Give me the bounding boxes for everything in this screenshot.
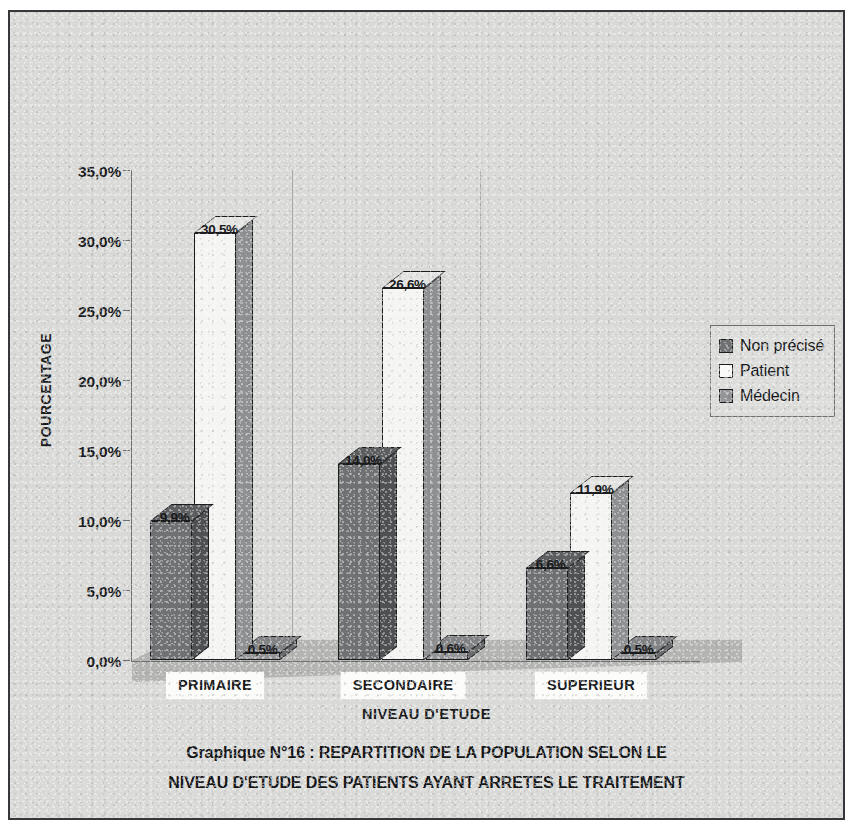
bar-front-face xyxy=(150,521,192,660)
x-axis-title: NIVEAU D'ETUDE xyxy=(10,706,843,722)
y-axis-tick-label: 0,0% xyxy=(86,653,132,670)
legend-label: Médecin xyxy=(740,387,800,405)
bar-value-label: 0,6% xyxy=(436,641,466,656)
y-axis-title: POURCENTAGE xyxy=(38,310,54,470)
legend-label: Patient xyxy=(740,362,789,380)
y-axis-tick: 5,0% xyxy=(10,583,132,597)
legend-item: Non précisé xyxy=(719,333,824,358)
caption-line-1: Graphique N°16 : REPARTITION DE LA POPUL… xyxy=(10,738,843,768)
bar-front-face xyxy=(526,568,568,660)
bar-value-label: 14,0% xyxy=(345,453,382,468)
y-axis-tick: 20,0% xyxy=(10,373,132,387)
chart-legend: Non préciséPatientMédecin xyxy=(710,325,835,417)
y-axis-tick: 25,0% xyxy=(10,303,132,317)
bar-superieur-0: 6,6% xyxy=(526,568,568,660)
page-root: 0,0%5,0%10,0%15,0%20,0%25,0%30,0%35,0% 0… xyxy=(0,0,851,828)
chart-figure: 0,0%5,0%10,0%15,0%20,0%25,0%30,0%35,0% 0… xyxy=(8,10,845,820)
legend-swatch-icon xyxy=(719,364,733,378)
y-axis-tick: 15,0% xyxy=(10,443,132,457)
bar-primaire-0: 9,9% xyxy=(150,521,192,660)
bar-value-label: 11,9% xyxy=(577,482,613,497)
bar-side-face xyxy=(380,451,397,660)
y-axis-tick-label: 15,0% xyxy=(78,443,132,460)
y-axis-tick-label: 35,0% xyxy=(78,163,132,180)
y-axis-tick: 35,0% xyxy=(10,163,132,177)
y-axis-tick-label: 10,0% xyxy=(78,513,132,530)
bar-value-label: 30,5% xyxy=(201,222,238,237)
legend-swatch-icon xyxy=(719,339,733,353)
y-axis-tick: 30,0% xyxy=(10,233,132,247)
legend-label: Non précisé xyxy=(740,337,824,355)
x-axis-line xyxy=(131,661,701,662)
bar-secondaire-0: 14,0% xyxy=(338,464,380,660)
bar-value-label: 9,9% xyxy=(160,510,190,525)
figure-caption: Graphique N°16 : REPARTITION DE LA POPUL… xyxy=(10,738,843,798)
legend-item: Médecin xyxy=(719,383,824,408)
y-axis-tick: 10,0% xyxy=(10,513,132,527)
y-axis-tick-label: 20,0% xyxy=(78,373,132,390)
y-axis-tick-label: 30,0% xyxy=(78,233,132,250)
bar-primaire-2: 0,5% xyxy=(238,653,280,660)
plot-area: 0,5%11,9%6,6%0,6%26,6%14,0%0,5%30,5%9,9% xyxy=(132,170,700,660)
bar-side-face xyxy=(612,480,629,660)
y-axis-tick-label: 25,0% xyxy=(78,303,132,320)
x-axis-category-label: PRIMAIRE xyxy=(166,672,264,699)
x-axis-category-label: SECONDAIRE xyxy=(341,672,466,699)
caption-line-2: NIVEAU D'ETUDE DES PATIENTS AYANT ARRETE… xyxy=(10,768,843,798)
legend-item: Patient xyxy=(719,358,824,383)
bar-superieur-2: 0,5% xyxy=(614,653,656,660)
legend-swatch-icon xyxy=(719,389,733,403)
bar-value-label: 0,5% xyxy=(248,642,278,657)
bar-value-label: 26,6% xyxy=(389,277,426,292)
bar-side-face xyxy=(424,274,441,660)
bar-value-label: 0,5% xyxy=(624,642,654,657)
y-axis-tick-label: 5,0% xyxy=(86,583,132,600)
bar-value-label: 6,6% xyxy=(536,557,566,572)
x-axis-category-label: SUPERIEUR xyxy=(535,672,647,699)
y-axis-tick: 0,0% xyxy=(10,653,132,667)
bar-front-face xyxy=(338,464,380,660)
bar-side-face xyxy=(568,554,585,660)
bar-side-face xyxy=(236,220,253,660)
bar-side-face xyxy=(192,508,209,660)
